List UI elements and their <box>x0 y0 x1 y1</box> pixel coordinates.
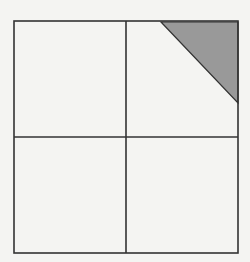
quadrant-square-diagram <box>0 0 250 262</box>
